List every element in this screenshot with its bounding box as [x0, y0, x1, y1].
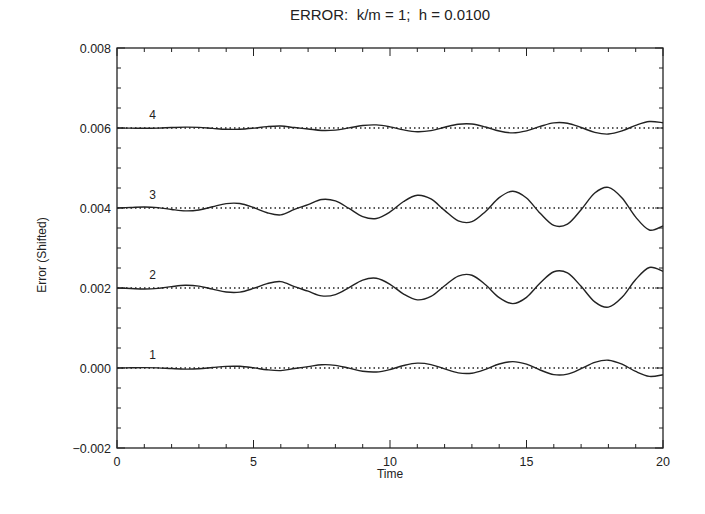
curve-3 — [117, 187, 663, 230]
chart-title: ERROR: k/m = 1; h = 0.0100 — [290, 6, 490, 23]
y-tick-label: −0.002 — [72, 442, 111, 456]
curve-1 — [117, 360, 663, 376]
error-chart: ERROR: k/m = 1; h = 0.0100 1234 05101520… — [0, 0, 705, 514]
dotted-baselines — [117, 128, 663, 368]
series-label-2: 2 — [149, 268, 156, 282]
series-label-4: 4 — [149, 108, 156, 122]
y-axis-label: Error (Shifted) — [35, 217, 49, 292]
x-axis-label: Time — [377, 467, 404, 481]
y-tick-label: 0.000 — [80, 362, 111, 376]
y-tick-label: 0.004 — [80, 202, 111, 216]
error-curves — [117, 121, 663, 376]
axis-ticks — [117, 48, 663, 448]
series-label-1: 1 — [149, 348, 156, 362]
plot-frame — [117, 48, 663, 448]
x-tick-label: 5 — [250, 455, 257, 469]
x-tick-label: 15 — [520, 455, 534, 469]
y-tick-label: 0.006 — [80, 122, 111, 136]
x-tick-label: 0 — [114, 455, 121, 469]
curve-4 — [117, 121, 663, 134]
y-axis-tick-labels: −0.0020.0000.0020.0040.0060.008 — [72, 42, 111, 456]
curve-2 — [117, 267, 663, 307]
y-tick-label: 0.002 — [80, 282, 111, 296]
x-tick-label: 20 — [656, 455, 670, 469]
series-labels: 1234 — [149, 108, 156, 362]
series-label-3: 3 — [149, 188, 156, 202]
y-tick-label: 0.008 — [80, 42, 111, 56]
